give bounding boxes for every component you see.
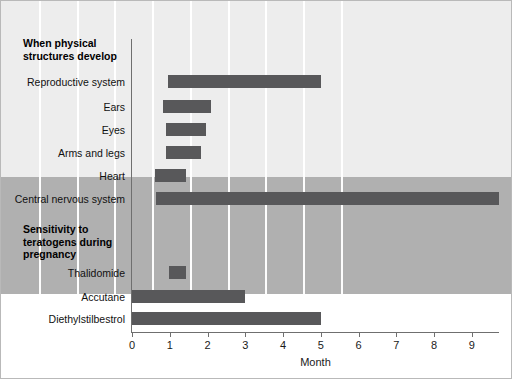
- x-tick-3: [245, 332, 246, 337]
- x-tick-label-9: 9: [460, 339, 484, 351]
- x-tick-label-8: 8: [422, 339, 446, 351]
- row-label-accutane: Accutane: [7, 291, 125, 303]
- x-tick-5: [321, 332, 322, 337]
- x-tick-7: [396, 332, 397, 337]
- x-tick-label-3: 3: [233, 339, 257, 351]
- bar-eyes: [166, 123, 206, 136]
- bar-central-nervous-system: [156, 192, 499, 205]
- x-axis-title: Month: [132, 356, 499, 368]
- chart-figure: 0123456789 Reproductive systemEarsEyesAr…: [0, 0, 512, 379]
- x-tick-label-5: 5: [309, 339, 333, 351]
- row-label-diethylstilbestrol: Diethylstilbestrol: [7, 313, 125, 325]
- bar-ears: [163, 100, 211, 113]
- section-heading-1: When physical structures develop: [23, 37, 135, 62]
- x-axis-line: [131, 332, 499, 333]
- x-tick-label-0: 0: [120, 339, 144, 351]
- bar-arms-and-legs: [166, 146, 201, 159]
- x-tick-0: [132, 332, 133, 337]
- x-tick-label-7: 7: [384, 339, 408, 351]
- x-tick-9: [472, 332, 473, 337]
- row-label-reproductive-system: Reproductive system: [7, 76, 125, 88]
- y-axis-line: [131, 39, 132, 332]
- gridline-month-9: [341, 1, 343, 378]
- bar-thalidomide: [169, 266, 186, 279]
- bar-reproductive-system: [168, 75, 321, 88]
- row-label-arms-and-legs: Arms and legs: [7, 147, 125, 159]
- bar-heart: [155, 169, 186, 182]
- x-tick-4: [283, 332, 284, 337]
- row-label-thalidomide: Thalidomide: [7, 267, 125, 279]
- row-label-ears: Ears: [7, 101, 125, 113]
- x-tick-label-6: 6: [347, 339, 371, 351]
- bar-accutane: [132, 290, 245, 303]
- row-label-central-nervous-system: Central nervous system: [7, 193, 125, 205]
- x-tick-2: [208, 332, 209, 337]
- x-tick-label-1: 1: [158, 339, 182, 351]
- x-tick-6: [359, 332, 360, 337]
- x-tick-8: [434, 332, 435, 337]
- section-heading-2: Sensitivity to teratogens during pregnan…: [23, 223, 135, 261]
- x-tick-label-4: 4: [271, 339, 295, 351]
- row-label-eyes: Eyes: [7, 124, 125, 136]
- row-label-heart: Heart: [7, 170, 125, 182]
- x-tick-label-2: 2: [196, 339, 220, 351]
- x-tick-1: [170, 332, 171, 337]
- bar-diethylstilbestrol: [132, 312, 321, 325]
